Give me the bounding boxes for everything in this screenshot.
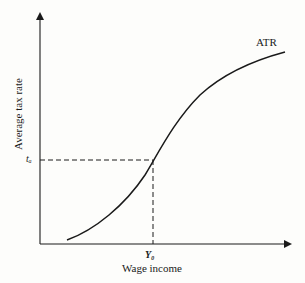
ta-tick-label: tₐ [26,153,32,164]
x-axis-label: Wage income [112,262,192,274]
y-axis-label: Average tax rate [12,74,24,154]
y0-tick-label: Y₀ [145,249,155,260]
series-label-atr: ATR [256,36,277,48]
atr-curve [67,52,285,240]
